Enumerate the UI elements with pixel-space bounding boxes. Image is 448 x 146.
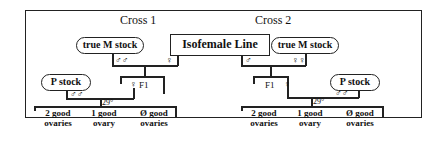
male-pair-icon: ♂♂: [70, 90, 84, 99]
outcome-2-good-ovaries: 2 good ovaries: [244, 108, 284, 128]
outcome-2-good-ovaries: 2 good ovaries: [38, 108, 78, 128]
outcome-0-good-ovaries: Ø good ovaries: [340, 108, 380, 128]
male-pair-icon: ♂♂: [115, 56, 129, 65]
outcome-1-good-ovary: 1 good ovary: [86, 108, 122, 128]
connector: [382, 106, 384, 118]
connector: [358, 91, 360, 98]
cross2-true-m-stock: true M stock: [271, 37, 339, 54]
connector: [175, 106, 177, 118]
f1-label: F1: [139, 80, 149, 90]
cross1-p-stock: P stock: [41, 74, 91, 91]
connector: [120, 76, 122, 84]
isofemale-line-box: Isofemale Line: [170, 34, 270, 56]
connector: [177, 56, 179, 66]
connector: [241, 106, 243, 111]
cross1-title: Cross 1: [120, 13, 156, 28]
female-pair-icon: ♀♀: [292, 56, 306, 65]
connector: [253, 76, 288, 78]
connector: [253, 76, 255, 84]
connector: [34, 106, 36, 111]
male-pair-icon: ♂♂: [335, 89, 349, 98]
female-icon: ♀: [166, 56, 173, 65]
outcome-0-good-ovaries: Ø good ovaries: [134, 108, 174, 128]
cross2-title: Cross 2: [255, 13, 291, 28]
male-icon: ♂: [245, 56, 252, 65]
connector: [120, 76, 164, 78]
diagram-frame: [25, 10, 422, 118]
temperature-label: 29°: [313, 98, 324, 106]
connector: [241, 65, 306, 67]
connector: [163, 76, 165, 94]
outcome-1-good-ovary: 1 good ovary: [292, 108, 328, 128]
f1-label: F1: [265, 80, 275, 90]
cross1-true-m-stock: true M stock: [76, 37, 144, 54]
